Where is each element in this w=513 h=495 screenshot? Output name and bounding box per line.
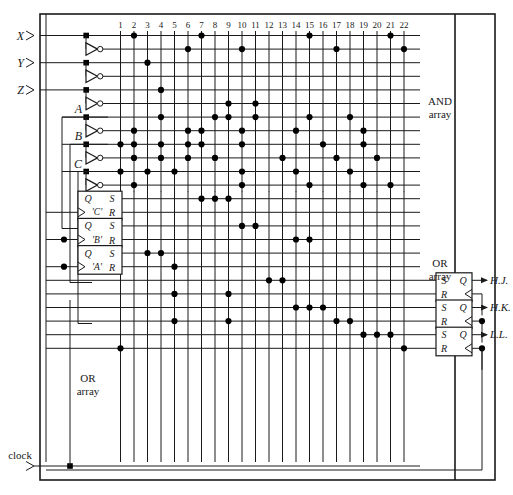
column-number-14: 14 bbox=[292, 20, 302, 30]
or-dot-r21-c16 bbox=[320, 304, 326, 310]
and-dot-r3-c3 bbox=[144, 60, 150, 66]
input-label-Y: Y bbox=[17, 56, 25, 70]
and-dot-r7-c18 bbox=[347, 114, 353, 120]
and-dot-r8-c6 bbox=[185, 128, 191, 134]
and-dot-r10-c6 bbox=[185, 155, 191, 161]
inverter-bubble-Y bbox=[98, 74, 103, 79]
or-dot-r23-c20 bbox=[374, 332, 380, 338]
ff-q-label-HK-flipflop: Q bbox=[459, 302, 467, 313]
ff-q-label-LL-flipflop: Q bbox=[459, 329, 467, 340]
inverter-gate-B bbox=[86, 152, 98, 164]
or-dot-r20-c5 bbox=[171, 291, 177, 297]
column-number-10: 10 bbox=[238, 20, 248, 30]
and-dot-r10-c17 bbox=[333, 155, 339, 161]
inverter-bubble-C bbox=[98, 182, 103, 187]
column-number-21: 21 bbox=[386, 20, 395, 30]
and-dot-r8-c10 bbox=[239, 128, 245, 134]
and-dot-r7-c9 bbox=[225, 114, 231, 120]
ff-s-label-HK-flipflop: S bbox=[442, 302, 447, 313]
state-flipflops: QSR'C'QSR'B'QSR'A' bbox=[46, 191, 122, 274]
and-dot-r9-c10 bbox=[239, 141, 245, 147]
and-dot-r2-c17 bbox=[333, 46, 339, 52]
and-dot-r11-c3 bbox=[144, 168, 150, 174]
inverter-bubble-B bbox=[98, 155, 103, 160]
and-dot-r8-c14 bbox=[293, 128, 299, 134]
column-number-16: 16 bbox=[319, 20, 329, 30]
output-flipflops: SQRH.J.SQRH.K.SQRL.L. bbox=[46, 273, 511, 470]
or-array-right-label-line2: array bbox=[429, 270, 452, 282]
and-dot-r9-c7 bbox=[198, 141, 204, 147]
column-number-7: 7 bbox=[199, 20, 204, 30]
and-dot-r9-c6 bbox=[185, 141, 191, 147]
and-dot-r11-c10 bbox=[239, 168, 245, 174]
or-dot-r13-c8 bbox=[212, 196, 218, 202]
and-dot-r12-c10 bbox=[239, 182, 245, 188]
pla-diagram-root: 12345678910111213141516171819202122 QSR'… bbox=[0, 0, 513, 495]
clock-line: clock bbox=[8, 300, 420, 471]
and-dot-r10-c4 bbox=[158, 155, 164, 161]
or-dot-r17-c4 bbox=[158, 250, 164, 256]
and-dot-r9-c1 bbox=[117, 141, 123, 147]
column-number-8: 8 bbox=[213, 20, 218, 30]
input-arrow-Z bbox=[26, 85, 34, 94]
ff-q-label-HJ-flipflop: Q bbox=[459, 275, 467, 286]
right-clock-rail bbox=[46, 348, 482, 470]
or-dot-r17-c3 bbox=[144, 250, 150, 256]
ff-name-A-flipflop: 'A' bbox=[92, 262, 103, 272]
and-dot-r12-c2 bbox=[131, 182, 137, 188]
and-dot-r10-c13 bbox=[279, 155, 285, 161]
ff-s-label-A-flipflop: S bbox=[110, 248, 115, 259]
column-number-row: 12345678910111213141516171819202122 bbox=[118, 20, 408, 30]
ff-q-label-B-flipflop: Q bbox=[84, 220, 92, 231]
output-label-L.L.: L.L. bbox=[489, 328, 508, 340]
ff-clock-rail-HJ-flipflop bbox=[472, 294, 482, 316]
output-label-H.K.: H.K. bbox=[489, 301, 511, 313]
inverter-gate-Y bbox=[86, 70, 98, 82]
column-number-22: 22 bbox=[400, 20, 409, 30]
column-number-11: 11 bbox=[251, 20, 260, 30]
or-dot-r22-c5 bbox=[171, 318, 177, 324]
and-dot-r7-c11 bbox=[252, 114, 258, 120]
column-number-15: 15 bbox=[305, 20, 315, 30]
or-dot-r20-c9 bbox=[225, 291, 231, 297]
and-dot-r1-c2 bbox=[131, 32, 137, 38]
and-dot-r7-c15 bbox=[306, 114, 312, 120]
ff-clock-rail-HK-flipflop bbox=[472, 321, 482, 343]
and-dot-r12-c19 bbox=[360, 182, 366, 188]
ff-name-B-flipflop: 'B' bbox=[92, 235, 103, 245]
and-dot-r6-c9 bbox=[225, 100, 231, 106]
or-dot-r22-c17 bbox=[333, 318, 339, 324]
and-dot-r5-c4 bbox=[158, 87, 164, 93]
or-dot-r22-c9 bbox=[225, 318, 231, 324]
column-number-2: 2 bbox=[132, 20, 137, 30]
feedback-label-C: C bbox=[74, 157, 83, 171]
ff-clock-tap-B-flipflop bbox=[61, 236, 67, 242]
ff-r-label-LL-flipflop: R bbox=[440, 343, 447, 354]
array-text-labels: AND array OR array OR array bbox=[77, 95, 452, 397]
and-array-label-line2: array bbox=[429, 108, 452, 120]
or-dot-r16-c14 bbox=[293, 236, 299, 242]
ff-s-label-LL-flipflop: S bbox=[442, 329, 447, 340]
ff-r-label-HK-flipflop: R bbox=[440, 316, 447, 327]
and-dot-r11-c14 bbox=[293, 168, 299, 174]
or-array-left-label-line1: OR bbox=[80, 372, 96, 384]
column-number-17: 17 bbox=[332, 20, 342, 30]
or-dot-r16-c15 bbox=[306, 236, 312, 242]
pla-schematic: 12345678910111213141516171819202122 QSR'… bbox=[0, 0, 513, 495]
and-dot-r1-c15 bbox=[306, 32, 312, 38]
ff-q-label-A-flipflop: Q bbox=[84, 248, 92, 259]
column-number-9: 9 bbox=[226, 20, 231, 30]
and-dot-r12-c15 bbox=[306, 182, 312, 188]
and-dot-r1-c7 bbox=[198, 32, 204, 38]
and-dot-r11-c18 bbox=[347, 168, 353, 174]
and-dot-r2-c22 bbox=[401, 46, 407, 52]
inverter-gate-C bbox=[86, 179, 98, 191]
or-dot-r24-c1 bbox=[117, 345, 123, 351]
or-dot-r22-c18 bbox=[347, 318, 353, 324]
product-term-lines-upper bbox=[121, 31, 405, 192]
and-dot-r11-c1 bbox=[117, 168, 123, 174]
ff-name-C-flipflop: 'C' bbox=[92, 207, 103, 217]
ff-clock-tap-A-flipflop bbox=[61, 264, 67, 270]
inverter-gate-A bbox=[86, 125, 98, 137]
clock-arrow bbox=[26, 462, 34, 471]
